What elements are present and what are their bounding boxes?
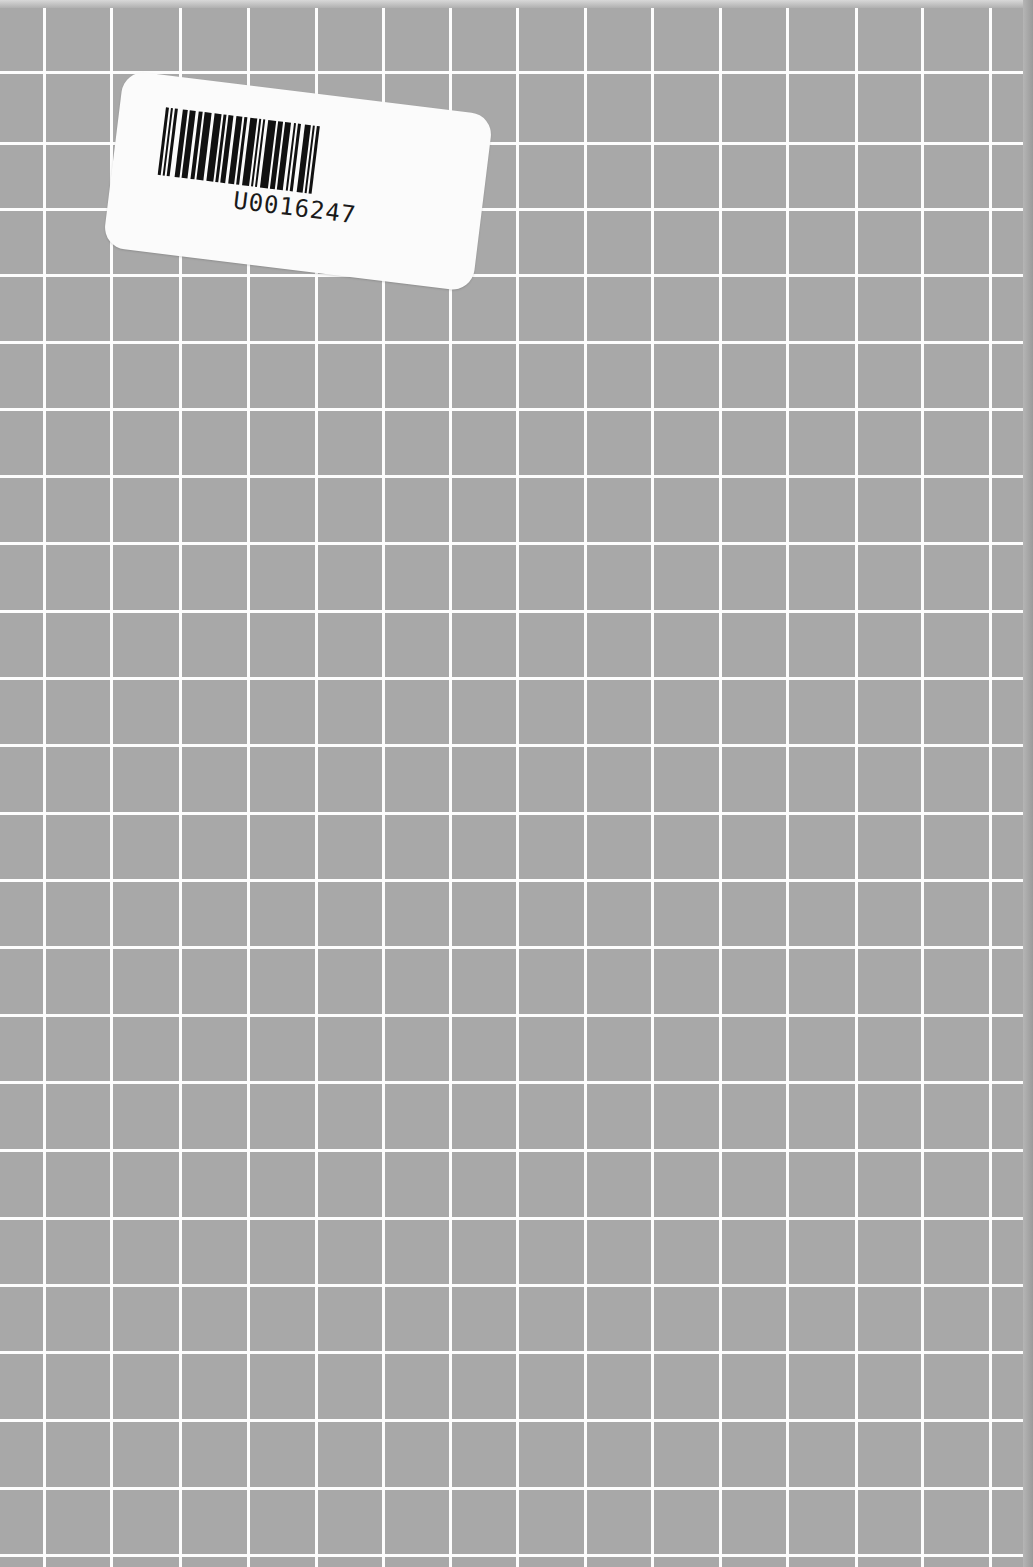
grid-vertical-line [921,0,924,1567]
notebook-cover: U0016247 [0,0,1033,1567]
grid-horizontal-line [0,408,1033,411]
cover-top-edge [0,0,1033,8]
grid-horizontal-line [0,274,1033,277]
grid-vertical-line [786,0,789,1567]
grid-horizontal-line [0,1554,1033,1557]
grid-vertical-line [719,0,722,1567]
cover-right-edge [1023,0,1033,1567]
grid-horizontal-line [0,1284,1033,1287]
grid-vertical-line [989,0,992,1567]
grid-vertical-line [651,0,654,1567]
grid-horizontal-line [0,1014,1033,1017]
grid-horizontal-line [0,879,1033,882]
grid-horizontal-line [0,341,1033,344]
grid-horizontal-line [0,946,1033,949]
grid-horizontal-line [0,812,1033,815]
grid-horizontal-line [0,1217,1033,1220]
grid-horizontal-line [0,1351,1033,1354]
grid-vertical-line [855,0,858,1567]
grid-horizontal-line [0,475,1033,478]
grid-vertical-line [516,0,519,1567]
grid-horizontal-line [0,744,1033,747]
grid-horizontal-line [0,677,1033,680]
grid-vertical-line [584,0,587,1567]
grid-horizontal-line [0,610,1033,613]
grid-horizontal-line [0,1487,1033,1490]
grid-horizontal-line [0,1081,1033,1084]
grid-horizontal-line [0,542,1033,545]
grid-vertical-line [43,0,46,1567]
grid-horizontal-line [0,1149,1033,1152]
grid-horizontal-line [0,1419,1033,1422]
